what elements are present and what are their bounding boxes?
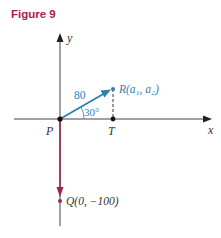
point-p-label: P: [45, 124, 54, 138]
magnitude-label: 80: [74, 89, 86, 101]
vector-diagram: y x P T R(a₁, a₂) Q(0, −100) 80 30°: [0, 0, 221, 238]
angle-label: 30°: [84, 106, 99, 118]
point-t: [111, 117, 116, 122]
point-r-label: R(a₁, a₂): [118, 83, 159, 96]
point-t-label: T: [108, 124, 116, 138]
point-q: [58, 199, 62, 203]
y-axis-label: y: [66, 31, 73, 45]
point-q-label: Q(0, −100): [66, 195, 119, 208]
point-p: [57, 116, 62, 121]
point-r: [111, 87, 115, 91]
x-axis-label: x: [207, 123, 214, 137]
vector-pq: [57, 119, 64, 197]
